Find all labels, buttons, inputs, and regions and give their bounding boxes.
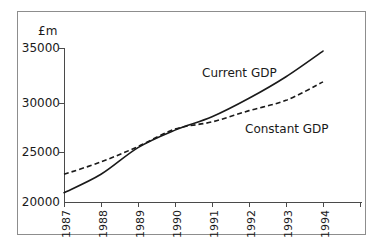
annotation-constant-gdp: Constant GDP [245, 122, 329, 136]
gdp-line-chart: £m 35000 30000 25000 20000 1987 1988 198… [0, 0, 381, 247]
annotation-current-gdp: Current GDP [202, 66, 277, 80]
y-axis-ticks [59, 49, 64, 153]
